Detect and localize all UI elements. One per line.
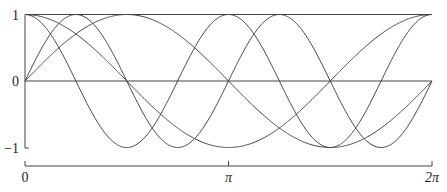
y-tick-label: −1 <box>4 141 19 156</box>
y-tick-label: 1 <box>12 8 19 23</box>
x-tick-label: 2π <box>425 170 440 185</box>
y-tick-label: 0 <box>12 74 19 89</box>
x-axis: 0π2π <box>22 161 440 185</box>
y-axis: 10−1 <box>4 8 29 156</box>
reference-lines <box>25 15 432 82</box>
trig-function-plot: 10−1 0π2π <box>0 0 447 192</box>
x-tick-label: π <box>225 170 233 185</box>
x-tick-label: 0 <box>22 170 29 185</box>
